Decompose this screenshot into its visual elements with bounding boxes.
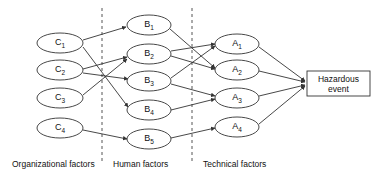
node-a1[interactable]: A1 — [215, 34, 259, 54]
node-a4[interactable]: A4 — [215, 117, 259, 137]
node-b2[interactable]: B2 — [127, 44, 171, 64]
diagram-canvas: C1C2C3C4B1B2B3B4B5A1A2A3A4 Hazardouseven… — [0, 0, 390, 180]
node-label-subscript: 5 — [150, 137, 154, 144]
node-label-subscript: 1 — [61, 41, 65, 48]
hazardous-event-line1: Hazardous — [318, 74, 359, 84]
node-label-subscript: 1 — [238, 42, 242, 49]
node-label-subscript: 4 — [238, 125, 242, 132]
edge-c3-to-b2 — [83, 59, 127, 95]
node-label-subscript: 1 — [150, 23, 154, 30]
edge-a1-to-hazardous-event — [259, 47, 305, 81]
hazard-network-diagram: C1C2C3C4B1B2B3B4B5A1A2A3A4 Hazardouseven… — [0, 0, 390, 180]
node-label-subscript: 3 — [150, 79, 154, 86]
node-c1[interactable]: C1 — [37, 33, 83, 53]
column-caption-technical: Technical factors — [203, 159, 266, 169]
node-c4[interactable]: C4 — [37, 118, 83, 138]
edge-c4-to-b5 — [83, 130, 127, 139]
edge-a4-to-hazardous-event — [259, 86, 305, 124]
hazardous-event-node[interactable]: Hazardousevent — [307, 71, 370, 96]
column-caption-organizational: Organizational factors — [12, 159, 95, 169]
node-label-subscript: 2 — [238, 68, 242, 75]
edge-a2-to-hazardous-event — [259, 71, 305, 82]
node-a3[interactable]: A3 — [215, 88, 259, 108]
node-b4[interactable]: B4 — [127, 100, 171, 120]
event-layer: Hazardousevent — [307, 71, 370, 96]
node-a2[interactable]: A2 — [215, 60, 259, 80]
nodes-layer: C1C2C3C4B1B2B3B4B5A1A2A3A4 — [37, 15, 259, 149]
node-label-subscript: 2 — [61, 68, 65, 75]
edges-layer — [83, 27, 305, 139]
edge-b4-to-a3 — [171, 99, 215, 110]
node-label-subscript: 4 — [150, 108, 154, 115]
edge-b3-to-a3 — [171, 84, 215, 96]
edge-b5-to-a4 — [171, 128, 215, 138]
node-label-subscript: 3 — [238, 96, 242, 103]
edge-b2-to-a1 — [171, 44, 215, 51]
node-label-subscript: 2 — [150, 52, 154, 59]
edge-c2-to-b3 — [83, 73, 128, 79]
column-caption-human: Human factors — [113, 159, 168, 169]
node-c2[interactable]: C2 — [37, 60, 83, 80]
node-c3[interactable]: C3 — [37, 88, 83, 108]
node-b5[interactable]: B5 — [127, 129, 171, 149]
edge-c2-to-b2 — [83, 57, 127, 69]
node-b3[interactable]: B3 — [127, 71, 171, 91]
hazardous-event-line2: event — [328, 84, 349, 94]
column-captions: Organizational factorsHuman factorsTechn… — [12, 159, 266, 169]
node-label-subscript: 4 — [61, 126, 65, 133]
node-b1[interactable]: B1 — [127, 15, 171, 35]
edge-a3-to-hazardous-event — [259, 85, 305, 96]
node-label-subscript: 3 — [61, 96, 65, 103]
edge-c1-to-b1 — [83, 27, 126, 40]
